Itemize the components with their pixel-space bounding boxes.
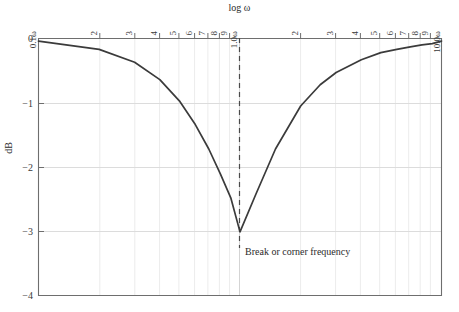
y-axis-title: dB bbox=[3, 142, 14, 154]
x-tick-label-8b: 8 bbox=[410, 31, 420, 36]
x-tick-label-5b: 5 bbox=[369, 31, 379, 36]
chart-svg: log ω 0.1ω 1.0ω 10.0ω 2 3 4 5 6 7 8 9 2 … bbox=[0, 0, 459, 312]
x-tick-label-3b: 3 bbox=[325, 31, 335, 36]
x-tick-label-6a: 6 bbox=[184, 31, 194, 36]
break-frequency-annotation: Break or corner frequency bbox=[245, 246, 350, 257]
x-tick-label-4b: 4 bbox=[350, 31, 360, 36]
x-tick-label-5a: 5 bbox=[168, 31, 178, 36]
x-tick-label-2b: 2 bbox=[290, 31, 300, 36]
x-tick-label-3a: 3 bbox=[124, 31, 134, 36]
x-axis-center-label: 1.0ω bbox=[229, 31, 239, 48]
y-tick-label-0: 0 bbox=[28, 33, 33, 44]
y-tick-label-1: −1 bbox=[22, 98, 33, 109]
y-tick-label-2: −2 bbox=[22, 162, 33, 173]
bode-magnitude-chart: log ω 0.1ω 1.0ω 10.0ω 2 3 4 5 6 7 8 9 2 … bbox=[0, 0, 459, 312]
y-tick-label-3: −3 bbox=[22, 226, 33, 237]
chart-title: log ω bbox=[229, 2, 251, 13]
x-tick-label-2a: 2 bbox=[89, 31, 99, 36]
y-tick-label-4: −4 bbox=[22, 290, 33, 301]
x-tick-label-9b: 9 bbox=[420, 31, 430, 36]
x-tick-label-8a: 8 bbox=[209, 31, 219, 36]
x-tick-label-7a: 7 bbox=[197, 31, 207, 36]
x-tick-label-9a: 9 bbox=[219, 31, 229, 36]
x-tick-label-6b: 6 bbox=[385, 31, 395, 36]
x-tick-label-7b: 7 bbox=[398, 31, 408, 36]
x-tick-label-4a: 4 bbox=[149, 31, 159, 36]
